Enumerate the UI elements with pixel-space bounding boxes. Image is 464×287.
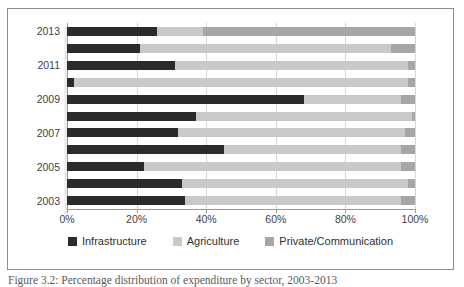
y-axis-label-2009: 2009 <box>37 93 60 105</box>
bar-segment-0 <box>67 95 304 104</box>
bar-segment-2 <box>408 61 415 70</box>
legend-label: Agriculture <box>187 235 240 247</box>
bar-segment-1 <box>144 162 402 171</box>
chart-plot-wrapper: 201320112009200720052003 0%20%40%60%80%1… <box>8 9 453 269</box>
bar-2008 <box>67 112 415 121</box>
legend-item-0[interactable]: Infrastructure <box>68 235 147 247</box>
bar-segment-2 <box>401 196 415 205</box>
bar-segment-1 <box>140 44 391 53</box>
x-axis-label: 60% <box>265 213 286 225</box>
legend-swatch-icon <box>265 237 274 246</box>
legend-label: Infrastructure <box>82 235 147 247</box>
bar-segment-1 <box>185 196 401 205</box>
bar-2011 <box>67 61 415 70</box>
y-axis-label-2007: 2007 <box>37 127 60 139</box>
bar-segment-2 <box>203 27 415 36</box>
x-axis-label: 40% <box>196 213 217 225</box>
gridline <box>415 23 416 209</box>
y-axis-label-2013: 2013 <box>37 25 60 37</box>
bar-2012 <box>67 44 415 53</box>
bar-segment-0 <box>67 112 196 121</box>
y-axis-label-2005: 2005 <box>37 161 60 173</box>
bar-segment-1 <box>74 78 408 87</box>
bar-segment-0 <box>67 196 185 205</box>
bar-segment-0 <box>67 27 157 36</box>
legend-label: Private/Communication <box>279 235 393 247</box>
legend-item-2[interactable]: Private/Communication <box>265 235 393 247</box>
bar-segment-0 <box>67 145 224 154</box>
bar-segment-0 <box>67 78 74 87</box>
x-axis-label-group: 0%20%40%60%80%100% <box>67 213 415 229</box>
bar-segment-2 <box>405 128 415 137</box>
y-axis-label-2003: 2003 <box>37 195 60 207</box>
bar-segment-1 <box>304 95 401 104</box>
legend-swatch-icon <box>68 237 77 246</box>
x-axis-label: 100% <box>402 213 429 225</box>
figure-container: 201320112009200720052003 0%20%40%60%80%1… <box>7 8 454 270</box>
bar-2009 <box>67 95 415 104</box>
bar-segment-1 <box>196 112 412 121</box>
bar-segment-0 <box>67 128 178 137</box>
y-axis-label-2011: 2011 <box>37 59 60 71</box>
bar-2013 <box>67 27 415 36</box>
bar-segment-2 <box>401 95 415 104</box>
bar-2003 <box>67 196 415 205</box>
bar-segment-1 <box>182 179 408 188</box>
bar-segment-1 <box>224 145 401 154</box>
bar-2010 <box>67 78 415 87</box>
bar-segment-1 <box>157 27 202 36</box>
bar-segment-2 <box>391 44 415 53</box>
bar-segment-2 <box>408 78 415 87</box>
bar-segment-1 <box>175 61 408 70</box>
bar-group <box>67 23 415 209</box>
bar-2004 <box>67 179 415 188</box>
bar-segment-0 <box>67 61 175 70</box>
chart-legend: InfrastructureAgriculturePrivate/Communi… <box>8 235 453 247</box>
bar-segment-0 <box>67 162 144 171</box>
figure-caption: Figure 3.2: Percentage distribution of e… <box>8 274 460 287</box>
bar-2005 <box>67 162 415 171</box>
bar-segment-0 <box>67 44 140 53</box>
legend-swatch-icon <box>173 237 182 246</box>
bar-segment-2 <box>401 145 415 154</box>
bar-2007 <box>67 128 415 137</box>
bar-segment-0 <box>67 179 182 188</box>
y-axis-label-group: 201320112009200720052003 <box>18 23 64 209</box>
bar-segment-2 <box>412 112 415 121</box>
x-axis-label: 0% <box>59 213 74 225</box>
bar-2006 <box>67 145 415 154</box>
plot-area <box>67 23 415 209</box>
x-axis-label: 20% <box>126 213 147 225</box>
bar-segment-1 <box>178 128 404 137</box>
legend-item-1[interactable]: Agriculture <box>173 235 240 247</box>
x-axis-label: 80% <box>335 213 356 225</box>
bar-segment-2 <box>408 179 415 188</box>
bar-segment-2 <box>401 162 415 171</box>
